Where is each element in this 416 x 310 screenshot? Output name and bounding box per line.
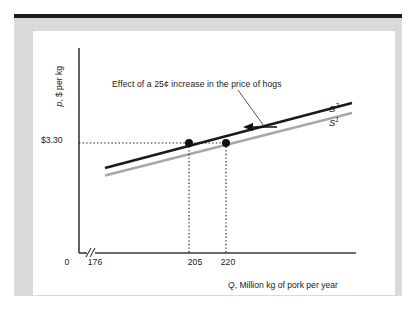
x-tick-label-220: 220 <box>217 258 239 267</box>
annotation-label: Effect of a 25¢ increase in the price of… <box>112 80 282 89</box>
x-axis-title: Q, Million kg of pork per year <box>228 281 338 290</box>
x-tick-label-176: 176 <box>84 258 106 267</box>
data-point-s1-220 <box>222 139 230 147</box>
y-tick-label-price: $3.30 <box>41 136 63 145</box>
curve-label-s1: S1 <box>329 117 339 128</box>
x-axis-variable: Q <box>228 280 235 290</box>
curve-label-s1-superscript: 1 <box>335 116 339 123</box>
y-axis-title: p, $ per kg <box>55 21 64 151</box>
curve-label-s2-superscript: 2 <box>335 102 339 109</box>
y-axis-units: , $ per kg <box>54 66 64 102</box>
supply-curve-s2 <box>105 103 352 168</box>
x-axis-units: , Million kg of pork per year <box>235 280 338 290</box>
curve-label-s2: S2 <box>329 103 339 114</box>
figure-root: Effect of a 25¢ increase in the price of… <box>0 0 416 310</box>
y-axis-variable: p <box>54 102 64 107</box>
x-tick-label-0: 0 <box>60 258 74 267</box>
x-tick-label-205: 205 <box>184 258 206 267</box>
data-point-s2-205 <box>185 139 193 147</box>
annotation-leader-line <box>238 90 264 126</box>
